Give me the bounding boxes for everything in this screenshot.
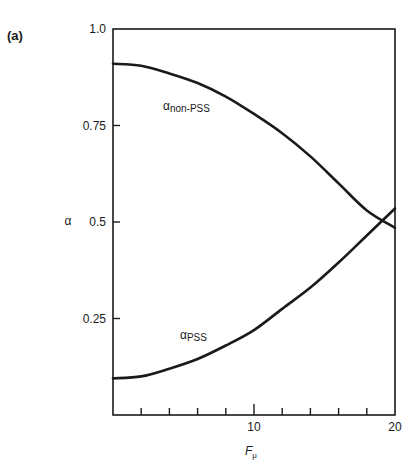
- plot-frame: [113, 29, 395, 415]
- y-tick-label: 0.5: [89, 215, 106, 229]
- x-tick-label: 10: [247, 420, 261, 434]
- label-alpha-pss: αPSS: [180, 328, 207, 343]
- label-alpha-non-pss: αnon-PSS: [163, 99, 210, 114]
- line-chart: 10201.00.750.50.25αFμαnon-PSSαPSS: [0, 0, 420, 470]
- curve-alpha-pss: [113, 208, 395, 378]
- y-axis-label: α: [65, 214, 72, 228]
- curve-alpha-non-pss: [113, 64, 395, 228]
- x-axis-label: Fμ: [245, 444, 257, 460]
- y-tick-label: 0.75: [83, 119, 107, 133]
- y-tick-label: 0.25: [83, 312, 107, 326]
- y-tick-label: 1.0: [89, 22, 106, 36]
- x-tick-label: 20: [388, 420, 402, 434]
